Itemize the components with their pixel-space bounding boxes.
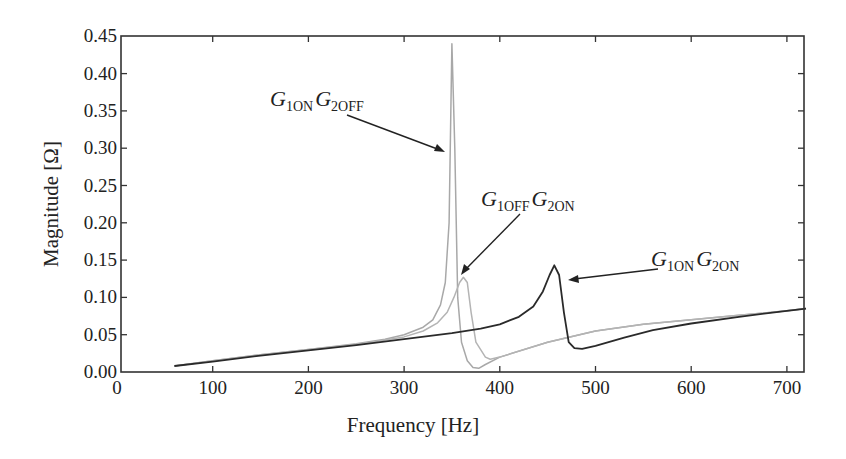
- x-tick-label: 700: [773, 377, 802, 398]
- x-tick-label: 300: [390, 377, 419, 398]
- y-tick-label: 0.00: [84, 361, 117, 382]
- annotation-arrow: [574, 269, 658, 279]
- annotation-arrow: [465, 214, 520, 270]
- x-axis-title: Frequency [Hz]: [347, 413, 479, 437]
- y-tick-label: 0.35: [84, 100, 117, 121]
- y-tick-label: 0.25: [84, 175, 117, 196]
- svg-text:G1ONG2ON: G1ONG2ON: [651, 246, 739, 274]
- series-line-g1off-g2on: [174, 277, 806, 366]
- x-tick-label: 400: [486, 377, 515, 398]
- arrowhead-icon: [434, 144, 445, 152]
- y-tick-label: 0.45: [84, 25, 117, 46]
- svg-text:G1ONG2OFF: G1ONG2OFF: [270, 86, 364, 114]
- y-tick-label: 0.20: [84, 212, 117, 233]
- magnitude-frequency-chart: 0100200300400500600700 0.000.050.100.150…: [0, 0, 846, 459]
- annotation-g1on-g2on: G1ONG2ON: [568, 246, 739, 283]
- y-tick-label: 0.40: [84, 63, 117, 84]
- annotation-g1off-g2on: G1OFFG2ON: [461, 186, 575, 275]
- y-tick-label: 0.05: [84, 324, 117, 345]
- y-tick-label: 0.10: [84, 286, 117, 307]
- x-tick-label: 600: [677, 377, 706, 398]
- x-tick-labels: 0100200300400500600700: [112, 377, 801, 398]
- y-tick-label: 0.30: [84, 137, 117, 158]
- annotation-g1on-g2off: G1ONG2OFF: [270, 86, 445, 152]
- x-tick-label: 500: [581, 377, 610, 398]
- series-line-g1on-g2on: [174, 265, 806, 366]
- x-tick-label: 100: [198, 377, 227, 398]
- y-axis-title: Magnitude [Ω]: [39, 141, 63, 267]
- arrowhead-icon: [568, 275, 579, 283]
- annotation-arrow: [347, 115, 440, 150]
- y-tick-labels: 0.000.050.100.150.200.250.300.350.400.45: [84, 25, 117, 382]
- y-tick-label: 0.15: [84, 249, 117, 270]
- x-tick-label: 200: [294, 377, 323, 398]
- svg-text:G1OFFG2ON: G1OFFG2ON: [481, 186, 575, 214]
